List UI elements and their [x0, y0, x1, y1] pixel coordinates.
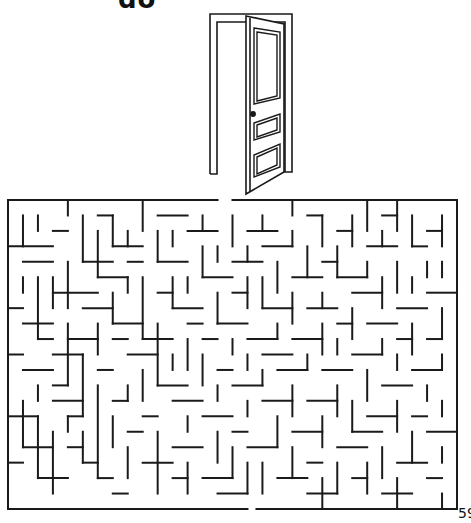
maze: [0, 0, 471, 523]
page-number: 59: [458, 505, 471, 521]
